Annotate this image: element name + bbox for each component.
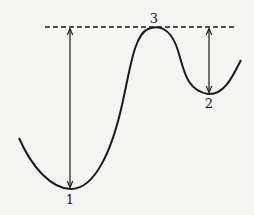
label-point-3: 3 bbox=[150, 11, 158, 26]
label-point-1: 1 bbox=[66, 192, 74, 207]
label-point-2: 2 bbox=[205, 96, 213, 111]
energy-diagram: 3 1 2 bbox=[0, 0, 254, 215]
